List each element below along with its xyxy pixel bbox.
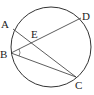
label-b: B xyxy=(0,48,7,60)
label-d: D xyxy=(82,10,90,22)
angle-marker xyxy=(19,49,20,56)
label-a: A xyxy=(1,18,9,30)
label-c: C xyxy=(75,79,82,91)
label-e: E xyxy=(31,28,38,40)
diagram-canvas: A B C D E xyxy=(0,0,94,95)
geometry-diagram: A B C D E xyxy=(0,0,94,95)
